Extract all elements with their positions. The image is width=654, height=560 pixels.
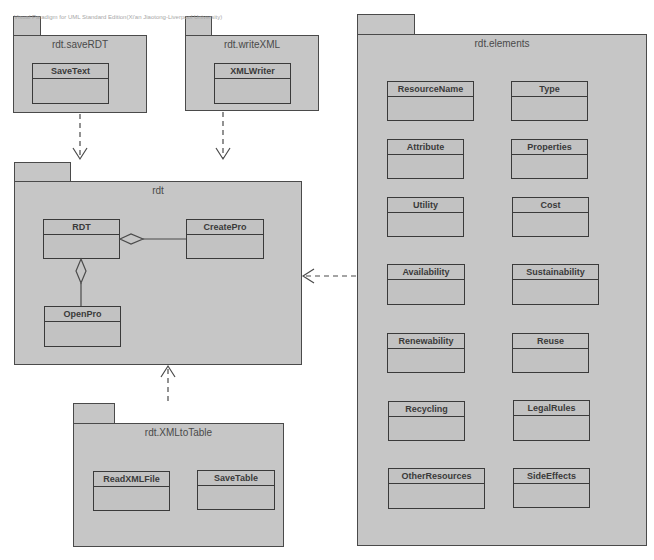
class-utility[interactable]: Utility [387, 197, 464, 237]
arrowhead-icon [73, 148, 87, 159]
package-tab [357, 14, 415, 35]
class-reuse[interactable]: Reuse [512, 333, 589, 373]
package-name: rdt.XMLtoTable [74, 427, 283, 438]
class-type[interactable]: Type [511, 81, 588, 121]
class-name: Reuse [513, 334, 588, 349]
package-tab [73, 403, 115, 424]
class-name: RDT [44, 220, 119, 235]
arrowhead-icon [216, 148, 230, 159]
arrowhead-icon [303, 269, 314, 283]
package-name: rdt.elements [358, 38, 646, 49]
class-name: Sustainability [513, 265, 598, 280]
class-openpro[interactable]: OpenPro [44, 306, 121, 347]
class-name: OtherResources [389, 469, 484, 484]
class-renewability[interactable]: Renewability [387, 333, 465, 373]
class-xmlwriter[interactable]: XMLWriter [214, 63, 291, 104]
class-name: XMLWriter [215, 64, 290, 79]
watermark-text: Visual Paradigm for UML Standard Edition… [14, 14, 222, 20]
class-name: Recycling [389, 402, 464, 417]
class-attribute[interactable]: Attribute [387, 139, 464, 179]
class-name: LegalRules [514, 401, 589, 416]
package-name: rdt.writeXML [186, 39, 318, 50]
package-name: rdt [15, 185, 301, 196]
class-properties[interactable]: Properties [511, 139, 588, 179]
class-name: Availability [388, 265, 464, 280]
class-name: SaveTable [198, 471, 274, 486]
class-name: SaveText [33, 64, 108, 79]
class-sustainability[interactable]: Sustainability [512, 264, 599, 305]
class-otherresources[interactable]: OtherResources [388, 468, 485, 509]
class-savetable[interactable]: SaveTable [197, 470, 275, 510]
class-name: Cost [513, 198, 588, 213]
class-name: Utility [388, 198, 463, 213]
class-availability[interactable]: Availability [387, 264, 465, 305]
package-name: rdt.saveRDT [14, 39, 146, 50]
class-name: ResourceName [388, 82, 473, 97]
package-tab [14, 162, 71, 182]
arrowhead-icon [161, 366, 175, 377]
class-createpro[interactable]: CreatePro [186, 219, 264, 259]
class-name: OpenPro [45, 307, 120, 322]
class-sideeffects[interactable]: SideEffects [513, 468, 590, 508]
class-name: Attribute [388, 140, 463, 155]
class-name: Type [512, 82, 587, 97]
class-legalrules[interactable]: LegalRules [513, 400, 590, 441]
class-name: ReadXMLFile [94, 472, 169, 487]
class-rdt[interactable]: RDT [43, 219, 120, 259]
class-cost[interactable]: Cost [512, 197, 589, 237]
class-recycling[interactable]: Recycling [388, 401, 465, 441]
class-name: CreatePro [187, 220, 263, 235]
class-name: Renewability [388, 334, 464, 349]
class-name: SideEffects [514, 469, 589, 484]
class-savetext[interactable]: SaveText [32, 63, 109, 104]
class-name: Properties [512, 140, 587, 155]
class-readxmlfile[interactable]: ReadXMLFile [93, 471, 170, 511]
class-resourcename[interactable]: ResourceName [387, 81, 474, 121]
